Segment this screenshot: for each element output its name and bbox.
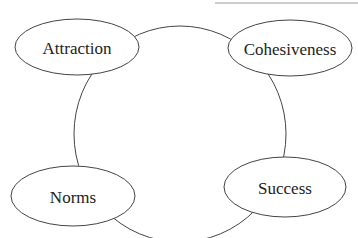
node-label-cohesiveness: Cohesiveness xyxy=(244,40,337,59)
node-label-norms: Norms xyxy=(50,188,96,207)
node-success: Success xyxy=(224,157,346,217)
node-cohesiveness: Cohesiveness xyxy=(228,20,352,76)
node-norms: Norms xyxy=(11,166,135,226)
cycle-diagram: Attraction Cohesiveness Success Norms xyxy=(0,0,358,238)
node-label-success: Success xyxy=(258,179,312,198)
node-label-attraction: Attraction xyxy=(43,39,112,58)
node-attraction: Attraction xyxy=(15,19,139,75)
